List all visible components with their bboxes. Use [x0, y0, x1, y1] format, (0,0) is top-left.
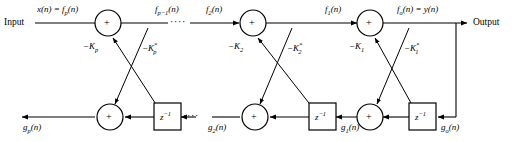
signal-tail: (n) — [212, 4, 223, 14]
coef-star: * — [299, 41, 302, 48]
coef-sub: 1 — [361, 46, 364, 53]
coefficient-label-k-2: −K2 — [228, 41, 243, 53]
delay-exp: −1 — [319, 110, 327, 117]
signal-tail: (n) — [331, 4, 342, 14]
coef-sub: 2 — [240, 46, 243, 53]
adder-symbol-bottom-2: + — [251, 111, 257, 122]
signal-label-f-2: f2(n) — [206, 4, 222, 16]
coef-star: * — [416, 41, 419, 48]
diagram-canvas — [0, 0, 515, 142]
signal-label-f-1: f1(n) — [325, 4, 341, 16]
coef-text: −K — [349, 41, 361, 51]
output-label: Output — [473, 17, 499, 27]
signal-tail: (n) = y(n) — [403, 4, 439, 14]
coef-sub: p — [153, 48, 156, 55]
signal-label-g-2: g2(n) — [208, 122, 226, 134]
signal-tail: (n) — [168, 4, 179, 14]
coef-sub: p — [95, 46, 98, 53]
delay-label-2: z−1 — [315, 110, 326, 122]
signal-tail: (n) — [216, 122, 227, 132]
signal-text: x(n) = f — [37, 4, 65, 14]
adder-symbol-top-2: + — [249, 17, 255, 28]
coefficient-label-k-1-star: −K*1 — [404, 41, 418, 55]
ellipsis-bottom: ···· — [183, 111, 199, 121]
coef-sub: 1 — [415, 48, 418, 55]
signal-label-g-o: go(n) — [441, 122, 459, 134]
coef-text: −K — [228, 41, 240, 51]
coefficient-label-k-2-star: −K*2 — [287, 41, 301, 55]
delay-label-p: z−1 — [160, 110, 171, 122]
signal-tail: (n) — [349, 122, 360, 132]
adder-symbol-top-1: + — [366, 17, 372, 28]
coefficient-label-k-p: −Kp — [83, 41, 98, 53]
signal-tail: (n) — [68, 4, 79, 14]
signal-label-f-o: fo(n) = y(n) — [397, 4, 438, 16]
signal-tail: (n) — [31, 122, 42, 132]
delay-exp: −1 — [419, 110, 427, 117]
coef-text: −K — [83, 41, 95, 51]
coef-sub: 2 — [298, 48, 301, 55]
signal-tail: (n) — [449, 122, 460, 132]
coef-star: * — [154, 41, 157, 48]
coefficient-label-k-p-star: −K*p — [142, 41, 156, 55]
lattice-filter-diagram: Input Output x(n) = fp(n) fp−1(n) f2(n) … — [0, 0, 515, 142]
delay-label-1: z−1 — [415, 110, 426, 122]
signal-label-f-p: x(n) = fp(n) — [37, 4, 78, 16]
ellipsis-top: ···· — [170, 17, 186, 27]
delay-exp: −1 — [164, 110, 172, 117]
adder-symbol-top-p: + — [104, 17, 110, 28]
coefficient-label-k-1: −K1 — [349, 41, 364, 53]
adder-symbol-bottom-p: + — [106, 111, 112, 122]
signal-label-g-p: gp(n) — [23, 122, 41, 134]
signal-sub: p−1 — [158, 9, 169, 16]
input-label: Input — [4, 17, 24, 27]
signal-label-f-p-minus-1: fp−1(n) — [155, 4, 179, 16]
adder-symbol-bottom-1: + — [366, 111, 372, 122]
signal-label-g-1: g1(n) — [341, 122, 359, 134]
